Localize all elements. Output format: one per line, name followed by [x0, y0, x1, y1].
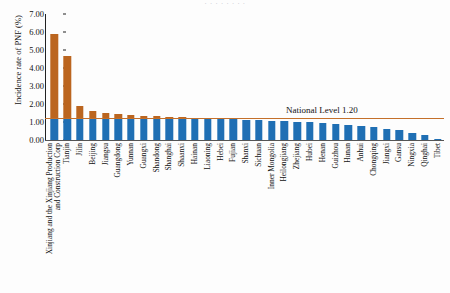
bar-slot: [214, 14, 227, 140]
category-label: Inner Mongolia: [268, 143, 276, 189]
y-tick-0.00: 0.00: [29, 136, 44, 144]
bar[interactable]: [319, 123, 326, 140]
plot-area: National Level 1.20: [48, 14, 444, 140]
category-label-slot: Shandong: [150, 143, 163, 288]
bar[interactable]: [153, 116, 160, 140]
bar-segment-below-national: [63, 118, 70, 140]
bar[interactable]: [191, 118, 198, 140]
bar[interactable]: [421, 135, 428, 140]
category-label-slot: Yunnan: [125, 143, 138, 288]
bar[interactable]: [332, 124, 339, 140]
category-label: Shandong: [153, 143, 161, 173]
category-label: Heilongjiang: [281, 143, 289, 182]
category-label: Jiangsu: [102, 143, 110, 165]
category-label-slot: Gansu: [393, 143, 406, 288]
bar-slot: [137, 14, 150, 140]
category-label-slot: Beijing: [86, 143, 99, 288]
y-tick-5.00: 5.00: [29, 46, 44, 54]
bar-slot: [99, 14, 112, 140]
bar-slot: [368, 14, 381, 140]
bar-slot: [316, 14, 329, 140]
bar[interactable]: [294, 122, 301, 140]
national-level-label: National Level 1.20: [286, 105, 358, 115]
bar[interactable]: [281, 121, 288, 140]
bar[interactable]: [204, 118, 211, 140]
x-axis-category-labels: Xinjiang and the Xinjiang Productionand …: [48, 143, 444, 288]
bar-segment-above-national: [89, 111, 96, 118]
bar-segment-below-national: [281, 121, 288, 140]
category-label-slot: Shanghai: [163, 143, 176, 288]
category-label: Shanxi: [242, 143, 250, 164]
bar-segment-below-national: [242, 120, 249, 140]
bar-slot: [74, 14, 87, 140]
x-axis-line: [45, 140, 444, 141]
bar-segment-below-national: [268, 121, 275, 140]
category-label-slot: Guangdong: [112, 143, 125, 288]
y-axis-line: [45, 14, 46, 140]
bar-segment-below-national: [230, 119, 237, 140]
category-label-slot: Qinghai: [419, 143, 432, 288]
category-label: Shaanxi: [178, 143, 186, 167]
category-label: Sichuan: [255, 143, 263, 167]
category-label-slot: Chongqing: [368, 143, 381, 288]
bar-segment-below-national: [166, 118, 173, 140]
category-label: Hubei: [306, 143, 314, 161]
bar-segment-below-national: [294, 122, 301, 140]
category-label-slot: Xinjiang and the Xinjiang Productionand …: [48, 143, 61, 288]
bar[interactable]: [255, 120, 262, 140]
bar[interactable]: [166, 117, 173, 140]
bar-segment-below-national: [345, 125, 352, 140]
category-label-slot: Guangxi: [137, 143, 150, 288]
bar-segment-below-national: [421, 135, 428, 140]
category-label: Zhejiang: [293, 143, 301, 169]
bar[interactable]: [268, 121, 275, 140]
bar[interactable]: [345, 125, 352, 140]
bar-segment-below-national: [434, 139, 441, 140]
category-label: Tibet: [434, 143, 442, 158]
bar-slot: [291, 14, 304, 140]
bar-slot: [380, 14, 393, 140]
bar-segment-below-national: [255, 120, 262, 140]
bar-segment-above-national: [51, 34, 58, 118]
bar-segment-below-national: [179, 118, 186, 140]
category-label: Ningxia: [408, 143, 416, 167]
bar[interactable]: [409, 133, 416, 140]
bar-segment-below-national: [409, 133, 416, 140]
bar-slot: [355, 14, 368, 140]
category-label-slot: Zhejiang: [291, 143, 304, 288]
bar[interactable]: [357, 126, 364, 140]
category-label-slot: Tianjin: [61, 143, 74, 288]
bar-slot: [201, 14, 214, 140]
bar[interactable]: [370, 127, 377, 140]
bar-slot: [419, 14, 432, 140]
y-axis-tick-labels: 7.006.005.004.003.002.001.000.00: [18, 14, 44, 140]
category-label-slot: Hainan: [189, 143, 202, 288]
national-level-line: [45, 118, 444, 119]
bar[interactable]: [242, 120, 249, 140]
bar[interactable]: [396, 130, 403, 140]
bar[interactable]: [63, 56, 70, 140]
bar[interactable]: [306, 122, 313, 140]
bar-segment-below-national: [370, 127, 377, 140]
category-label: Anhui: [357, 143, 365, 161]
bar[interactable]: [383, 129, 390, 140]
category-label-slot: Shaanxi: [176, 143, 189, 288]
bar[interactable]: [230, 119, 237, 140]
bar[interactable]: [102, 113, 109, 140]
category-label: Liaoning: [204, 143, 212, 170]
bar[interactable]: [179, 117, 186, 140]
bar[interactable]: [89, 111, 96, 140]
category-label-slot: Jiangxi: [380, 143, 393, 288]
bar-segment-below-national: [51, 118, 58, 140]
bar-segment-above-national: [63, 56, 70, 119]
bar[interactable]: [51, 34, 58, 140]
bar[interactable]: [434, 139, 441, 140]
category-label-slot: Jiangsu: [99, 143, 112, 288]
bar-segment-below-national: [153, 118, 160, 140]
category-label: Guangxi: [140, 143, 148, 168]
bar-slot: [393, 14, 406, 140]
bar[interactable]: [217, 119, 224, 140]
bar-slot: [86, 14, 99, 140]
bar[interactable]: [76, 106, 83, 140]
bar-segment-below-national: [306, 122, 313, 140]
